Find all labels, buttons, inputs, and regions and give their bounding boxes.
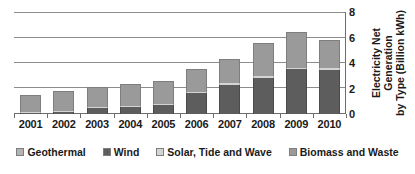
bar-stack[interactable] [186,69,207,114]
x-axis-label: 2006 [180,118,213,130]
x-axis-label: 2002 [47,118,80,130]
legend-swatch-icon [103,148,111,156]
bar-slot [147,12,180,114]
bar-segment [87,87,108,106]
bar-stack[interactable] [53,91,74,114]
legend-item-label: Solar, Tide and Wave [167,146,271,158]
bar-stack[interactable] [153,81,174,114]
bar-stack[interactable] [319,40,340,114]
x-axis-label: 2007 [213,118,246,130]
bar-slot [47,12,80,114]
y-axis-label: 6 [349,32,355,44]
bar-stack[interactable] [87,87,108,114]
x-axis-label: 2008 [246,118,279,130]
bar-segment [286,69,307,114]
bar-segment [153,81,174,105]
bar-slot [114,12,147,114]
bar-segment [53,91,74,111]
legend-item-label: Geothermal [27,146,85,158]
bar-segment [186,69,207,92]
legend-swatch-icon [289,148,297,156]
bar-segment [319,70,340,114]
bar-slot [313,12,346,114]
y-axis-label: 0 [349,108,355,120]
bar-stack[interactable] [20,95,41,114]
bar-slot [280,12,313,114]
x-axis-label: 2009 [280,118,313,130]
bar-slot [246,12,279,114]
bar-stack[interactable] [253,43,274,114]
bar-stack[interactable] [286,32,307,114]
legend-item[interactable]: Solar, Tide and Wave [156,146,271,158]
x-axis-label: 2010 [313,118,346,130]
bar-segment [253,78,274,114]
bar-segment [219,59,240,83]
x-axis-label: 2005 [147,118,180,130]
bar-segment [120,107,141,114]
bar-slot [180,12,213,114]
bar-stack[interactable] [120,84,141,114]
plot-area [14,12,346,114]
stacked-bar-chart: 2001200220032004200520062007200820092010… [0,0,415,174]
bar-slot [14,12,47,114]
bar-segment [286,32,307,67]
x-axis-labels: 2001200220032004200520062007200820092010 [14,118,346,130]
legend-item[interactable]: Wind [103,146,140,158]
bar-series-container [14,12,346,114]
chart-legend: GeothermalWindSolar, Tide and WaveBiomas… [0,146,415,158]
y-axis-label: 2 [349,83,355,95]
bar-segment [253,43,274,77]
legend-item-label: Biomass and Waste [300,146,399,158]
legend-item[interactable]: Geothermal [16,146,85,158]
y-axis-title-line1: Electricity Net Generation [370,28,394,98]
bar-slot [80,12,113,114]
legend-item[interactable]: Biomass and Waste [289,146,399,158]
y-axis-title: Electricity Net Generation by Type (Bill… [362,0,414,126]
y-axis-label: 8 [349,6,355,18]
bar-segment [186,93,207,114]
legend-swatch-icon [16,148,24,156]
bar-segment [120,84,141,106]
x-axis-label: 2001 [14,118,47,130]
bar-slot [213,12,246,114]
bar-segment [20,95,41,112]
bar-segment [219,85,240,114]
x-axis-tick [346,114,347,118]
bar-stack[interactable] [219,59,240,114]
legend-swatch-icon [156,148,164,156]
x-axis-label: 2003 [80,118,113,130]
y-axis-label: 4 [349,57,355,69]
x-axis-label: 2004 [114,118,147,130]
legend-item-label: Wind [114,146,140,158]
bar-segment [153,105,174,114]
y-axis-title-line2: by Type (Billion kWh) [394,10,406,116]
bar-segment [319,40,340,68]
